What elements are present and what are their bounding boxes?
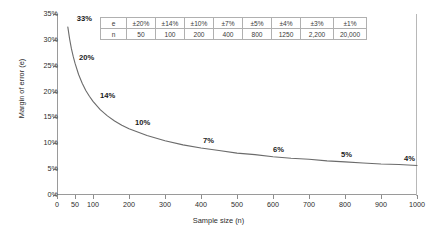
x-axis-title: Sample size (n) [0, 216, 437, 225]
data-point-label: 6% [273, 146, 284, 154]
inset-lookup-table: e±20%±14%±10%±7%±5%±4%±3%±1%n50100200400… [100, 17, 367, 40]
x-tick-mark [345, 195, 346, 199]
x-tick-mark [75, 195, 76, 199]
table-cell: 200 [185, 29, 214, 40]
x-tick-label: 700 [289, 201, 329, 208]
data-point-label: 14% [100, 92, 115, 100]
table-cell: 100 [156, 29, 185, 40]
x-tick-mark [201, 195, 202, 199]
x-tick-mark [417, 195, 418, 199]
x-tick-label: 800 [325, 201, 365, 208]
x-tick-label: 500 [217, 201, 257, 208]
x-tick-mark [129, 195, 130, 199]
table-cell: 800 [243, 29, 272, 40]
table-row: n5010020040080012502,20020,000 [101, 29, 367, 40]
x-tick-label: 400 [181, 201, 221, 208]
margin-of-error-chart: 0%5%10%15%20%25%30%35% Margin of error (… [0, 0, 437, 234]
y-tick-label: 35% [26, 10, 58, 17]
y-tick-label: 5% [26, 165, 58, 172]
x-tick-label: 600 [253, 201, 293, 208]
y-tick-label: 10% [26, 139, 58, 146]
table-cell: ±10% [185, 18, 214, 29]
x-tick-label: 1000 [397, 201, 437, 208]
table-cell: ±1% [334, 18, 367, 29]
y-tick-label: 20% [26, 88, 58, 95]
table-cell: ±5% [243, 18, 272, 29]
table-cell: ±7% [214, 18, 243, 29]
table-cell: ±14% [156, 18, 185, 29]
x-tick-mark [273, 195, 274, 199]
table-cell: 50 [127, 29, 156, 40]
table-cell: 2,200 [301, 29, 334, 40]
data-point-label: 20% [79, 54, 94, 62]
x-tick-mark [57, 195, 58, 199]
x-tick-mark [165, 195, 166, 199]
table-cell: ±20% [127, 18, 156, 29]
table-row-header: e [101, 18, 127, 29]
x-tick-mark [381, 195, 382, 199]
x-tick-label: 100 [73, 201, 113, 208]
data-point-label: 33% [77, 15, 92, 23]
data-point-label: 7% [203, 137, 214, 145]
table-cell: ±4% [272, 18, 301, 29]
data-point-label: 4% [404, 155, 415, 163]
y-tick-label: 25% [26, 62, 58, 69]
y-tick-label: 15% [26, 113, 58, 120]
y-tick-label: 0% [26, 191, 58, 198]
y-tick-label: 30% [26, 36, 58, 43]
table-cell: 20,000 [334, 29, 367, 40]
x-tick-mark [237, 195, 238, 199]
x-tick-label: 200 [109, 201, 149, 208]
table-cell: ±3% [301, 18, 334, 29]
table-cell: 400 [214, 29, 243, 40]
y-axis-title: Margin of error (e) [17, 29, 26, 149]
data-point-label: 5% [341, 151, 352, 159]
x-tick-label: 900 [361, 201, 401, 208]
x-tick-label: 300 [145, 201, 185, 208]
table-row-header: n [101, 29, 127, 40]
data-point-label: 10% [135, 119, 150, 127]
table-row: e±20%±14%±10%±7%±5%±4%±3%±1% [101, 18, 367, 29]
x-tick-mark [309, 195, 310, 199]
x-tick-mark [93, 195, 94, 199]
margin-of-error-curve [57, 14, 417, 195]
table-cell: 1250 [272, 29, 301, 40]
